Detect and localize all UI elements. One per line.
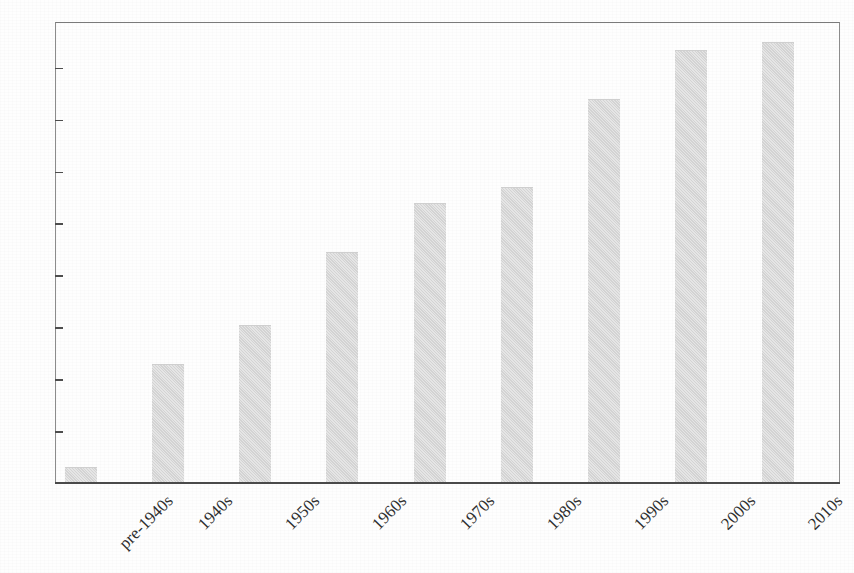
- bar: [762, 42, 794, 483]
- bar: [501, 187, 533, 483]
- plot-area: [55, 22, 840, 484]
- x-axis-tick-label: pre-1940s: [116, 492, 177, 553]
- y-axis-tick-mark: [55, 120, 63, 122]
- bar: [588, 99, 620, 483]
- y-axis-tick-mark: [55, 327, 63, 329]
- y-axis-tick-mark: [55, 275, 63, 277]
- x-axis-tick-label: 1990s: [631, 492, 672, 533]
- bar: [65, 467, 97, 483]
- x-axis-tick-label: 2000s: [718, 492, 759, 533]
- x-axis-tick-label: 1960s: [369, 492, 410, 533]
- x-axis-tick-label: 2010s: [805, 492, 846, 533]
- bar: [414, 203, 446, 483]
- x-axis-tick-label: 1980s: [544, 492, 585, 533]
- bar: [326, 252, 358, 483]
- x-axis-tick-label: 1940s: [195, 492, 236, 533]
- y-axis-tick-mark: [55, 68, 63, 70]
- y-axis-tick-mark: [55, 223, 63, 225]
- x-axis-tick-label: 1970s: [456, 492, 497, 533]
- x-axis-tick-label: 1950s: [282, 492, 323, 533]
- bar: [239, 325, 271, 483]
- bar: [152, 364, 184, 483]
- y-axis-tick-mark: [55, 172, 63, 174]
- y-axis-tick-mark: [55, 379, 63, 381]
- bar: [675, 50, 707, 483]
- bar-chart-figure: 1020304050607080 pre-1940s1940s1950s1960…: [0, 0, 854, 573]
- y-axis-tick-mark: [55, 431, 63, 433]
